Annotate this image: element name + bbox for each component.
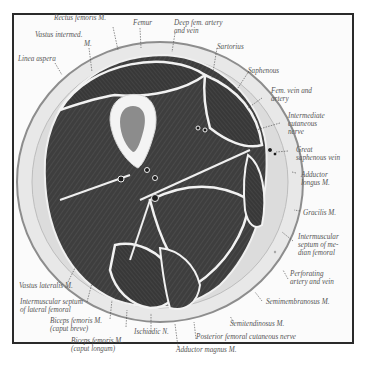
label-deep-fem-vein: and vein xyxy=(174,27,199,35)
label-great: Great xyxy=(296,146,313,154)
label-adductor-longus: Adductor xyxy=(301,171,328,179)
label-posterior-femoral-cutaneous: Posterior femoral cutaneous nerve xyxy=(196,333,296,341)
label-semimembranosus: Semimembranosus M. xyxy=(266,298,329,306)
label-intermuscular-lateral: Intermuscular septum xyxy=(20,298,83,306)
label-semitendinosus: Semitendinosus M. xyxy=(230,320,284,328)
label-vastus-intermed: Vastus intermed. xyxy=(35,31,83,39)
label-gracilis: Gracilis M. xyxy=(303,209,336,217)
label-ischiadic: Ischiadic N. xyxy=(134,328,169,336)
label-rectus-femoris: Rectus femoris M. xyxy=(54,14,106,22)
label-fem-vein: Fem. vein and xyxy=(271,87,312,95)
label-sartorius: Sartorius xyxy=(217,43,244,51)
label-septum-median: septum of me- xyxy=(298,241,338,249)
label-biceps-breve: Biceps femoris M. xyxy=(50,317,102,325)
label-linea-aspera: Linea aspera xyxy=(18,55,56,63)
label-perforating-artery: artery and vein xyxy=(290,278,334,286)
label-biceps-longum: Biceps femoris M. xyxy=(71,337,123,345)
label-caput-breve: (caput breve) xyxy=(50,325,88,333)
label-dian-femoral: dian femoral xyxy=(298,249,335,257)
label-vastus-intermed-m: M. xyxy=(84,40,92,48)
label-femur: Femur xyxy=(133,19,152,27)
label-adductor-magnus: Adductor magnus M. xyxy=(176,346,237,354)
muscle-groups xyxy=(45,55,267,309)
label-longus-m: longus M. xyxy=(301,179,330,187)
label-intermuscular: Intermuscular xyxy=(298,233,339,241)
label-vastus-lateralis: Vastus lateralis M. xyxy=(19,282,73,290)
label-saphenous-vein: saphenous vein xyxy=(296,154,340,162)
label-lateral-femoral: of lateral femoral xyxy=(20,306,71,314)
label-perforating: Perforating xyxy=(290,270,324,278)
label-caput-longum: (caput longum) xyxy=(71,345,115,353)
label-cutaneous: cutaneous xyxy=(288,120,317,128)
label-fem-artery: artery xyxy=(271,95,289,103)
label-deep-fem-artery: Deep fem. artery xyxy=(174,19,223,27)
label-saphenous: Saphenous xyxy=(248,67,279,75)
label-nerve: nerve xyxy=(288,128,304,136)
label-intermediate: Intermediate xyxy=(288,112,325,120)
